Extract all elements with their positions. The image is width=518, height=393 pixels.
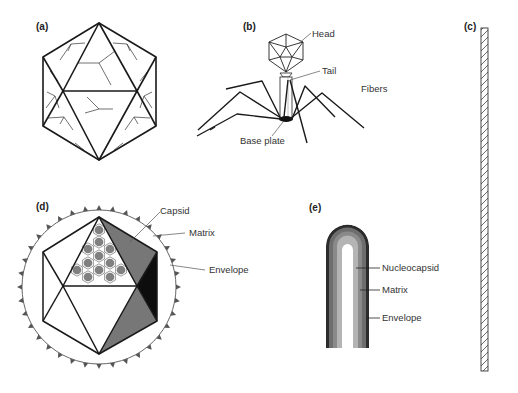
helical-rod [481, 28, 488, 371]
label-envelope: Envelope [209, 264, 249, 275]
spike-icon [96, 364, 101, 369]
capsomere-dot [84, 259, 93, 268]
spike-icon [83, 206, 88, 211]
capsomere-dot [95, 238, 104, 247]
label-envelope-e: Envelope [382, 312, 422, 323]
label-capsid: Capsid [160, 205, 190, 216]
spike-icon [174, 271, 179, 276]
spike-icon [17, 284, 22, 289]
spike-icon [96, 205, 101, 210]
panel-e-label: (e) [309, 202, 321, 213]
icosahedron-outline [43, 23, 156, 160]
label-head: Head [312, 28, 335, 39]
spike-icon [18, 271, 23, 276]
spike-icon [174, 298, 179, 303]
spike-icon [18, 298, 23, 303]
capsomere-dot [95, 226, 104, 235]
panel-a-icosahedron: (a) [36, 21, 156, 160]
capsomere-dot [95, 252, 104, 261]
panel-d-enveloped-icosahedral: (d) Capsid Matrix Envelope [17, 201, 249, 369]
spike-icon [176, 284, 181, 289]
capsomere-dot [73, 266, 82, 275]
label-fibers: Fibers [361, 83, 388, 94]
capsomere-dot [106, 273, 115, 282]
virus-structures-figure: (a) (b) [0, 0, 518, 393]
capsomere-dot [106, 245, 115, 254]
label-matrix: Matrix [189, 227, 215, 238]
panel-a-label: (a) [36, 21, 48, 32]
enveloped-rod [326, 225, 369, 349]
capsomere-lines [46, 43, 152, 150]
spike-icon [83, 362, 88, 367]
label-tail: Tail [322, 65, 336, 76]
spike-icon [110, 362, 115, 367]
capsomere-dot [95, 266, 104, 275]
panel-c-helical-rod: (c) [464, 21, 488, 371]
spike-icon [110, 206, 115, 211]
phage-collar [280, 73, 292, 77]
panel-c-label: (c) [464, 21, 476, 32]
panel-b-label: (b) [243, 21, 256, 32]
capsomere-dot [117, 266, 126, 275]
phage-head [269, 34, 303, 72]
label-base-plate: Base plate [240, 135, 285, 146]
capsomere-dot [84, 245, 93, 254]
panel-d-label: (d) [36, 201, 49, 212]
capsomere-dot [106, 259, 115, 268]
panel-b-bacteriophage: (b) [197, 21, 388, 146]
label-nucleocapsid: Nucleocapsid [382, 262, 439, 273]
panel-e-enveloped-helical: (e) Nucleocapsid Matrix Envelope [309, 202, 439, 348]
label-matrix-e: Matrix [382, 284, 408, 295]
capsomere-dot [84, 273, 93, 282]
